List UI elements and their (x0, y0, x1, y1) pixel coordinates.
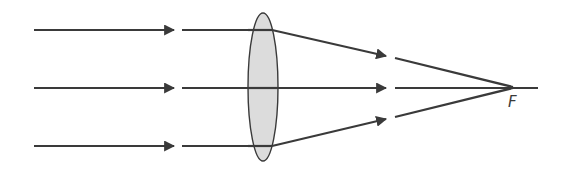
top-ray-refracted-arrow (272, 30, 386, 56)
incoming-rays (34, 30, 272, 146)
refracted-rays (272, 30, 538, 146)
top-ray-to-focus (395, 58, 513, 87)
bottom-ray-refracted-arrow (272, 119, 386, 146)
bottom-ray-to-focus (395, 88, 513, 117)
focal-point-label: F (508, 93, 517, 111)
lens-diagram: F (0, 0, 566, 172)
